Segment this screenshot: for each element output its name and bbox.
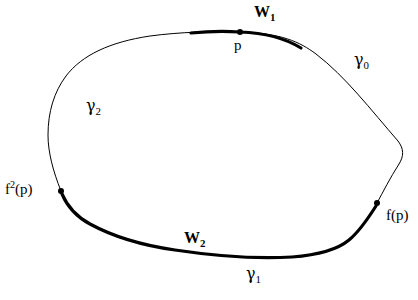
label-gamma2-base: γ <box>86 96 96 115</box>
label-w2: W2 <box>184 230 205 246</box>
arc-w1-thick <box>191 31 301 48</box>
label-gamma1: γ1 <box>246 266 261 282</box>
closed-curve-path <box>48 32 403 258</box>
label-w2-base: W <box>184 229 200 246</box>
label-f2-p-tail: (p) <box>15 181 33 197</box>
label-gamma0-base: γ <box>354 50 364 69</box>
label-f2-p: f2(p) <box>5 182 33 197</box>
label-w1-subscript: 1 <box>270 11 275 23</box>
label-gamma2: γ2 <box>86 98 101 114</box>
point-f2-p <box>58 188 64 194</box>
point-f-p <box>374 200 380 206</box>
label-f-p: f(p) <box>386 208 409 223</box>
label-f-p-text: f(p) <box>386 207 409 223</box>
closed-curve-diagram <box>0 0 418 300</box>
label-w1-base: W <box>254 3 270 20</box>
label-w2-subscript: 2 <box>200 237 205 249</box>
label-w1: W1 <box>254 4 275 20</box>
label-gamma0-subscript: 0 <box>364 59 369 71</box>
figure-canvas: W1 p γ0 γ2 f2(p) f(p) W2 γ1 <box>0 0 418 300</box>
label-p: p <box>234 38 242 53</box>
label-gamma1-base: γ <box>246 264 256 283</box>
point-p <box>237 29 243 35</box>
label-p-text: p <box>234 37 242 53</box>
arc-w2-thick <box>62 194 376 258</box>
label-gamma2-subscript: 2 <box>96 105 101 117</box>
label-gamma0: γ0 <box>354 52 369 68</box>
label-gamma1-subscript: 1 <box>256 273 261 285</box>
